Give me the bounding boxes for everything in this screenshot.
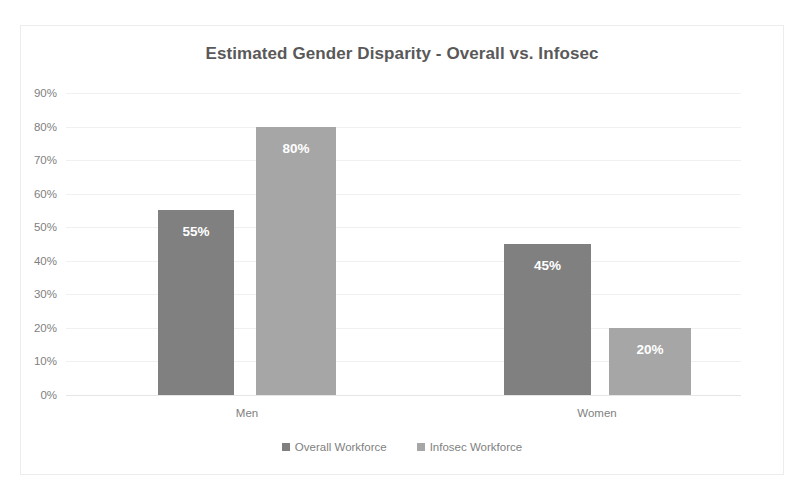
bar-value-label: 80%: [256, 141, 336, 156]
ytick-label-80: 80%: [34, 121, 57, 133]
xaxis-label-men: Men: [236, 407, 258, 419]
chart-title: Estimated Gender Disparity - Overall vs.…: [21, 44, 783, 64]
chart-legend: Overall Workforce Infosec Workforce: [21, 441, 783, 453]
ytick-label-40: 40%: [34, 255, 57, 267]
ytick-label-50: 50%: [34, 221, 57, 233]
ytick-label-70: 70%: [34, 154, 57, 166]
bar-value-label: 55%: [158, 224, 234, 239]
bar-value-label: 20%: [609, 342, 691, 357]
legend-swatch-icon: [282, 443, 290, 451]
gridline-90: 90%: [66, 93, 741, 94]
legend-item-infosec-workforce[interactable]: Infosec Workforce: [417, 441, 522, 453]
legend-item-overall-workforce[interactable]: Overall Workforce: [282, 441, 387, 453]
bar-men-overall[interactable]: 55%: [158, 210, 234, 395]
ytick-label-60: 60%: [34, 188, 57, 200]
gridline-80: 80%: [66, 127, 741, 128]
bar-women-infosec[interactable]: 20%: [609, 328, 691, 395]
ytick-label-30: 30%: [34, 288, 57, 300]
ytick-label-20: 20%: [34, 322, 57, 334]
gridline-60: 60%: [66, 194, 741, 195]
gridline-70: 70%: [66, 160, 741, 161]
legend-swatch-icon: [417, 443, 425, 451]
plot-area: 90% 80% 70% 60% 50% 40% 30% 20% 10% 0%: [66, 93, 741, 395]
ytick-label-90: 90%: [34, 87, 57, 99]
bar-women-overall[interactable]: 45%: [504, 244, 591, 395]
bar-men-infosec[interactable]: 80%: [256, 127, 336, 395]
xaxis-label-women: Women: [577, 407, 616, 419]
bar-value-label: 45%: [504, 258, 591, 273]
gridline-0: 0%: [66, 395, 741, 396]
legend-label: Infosec Workforce: [430, 441, 522, 453]
ytick-label-10: 10%: [34, 355, 57, 367]
legend-label: Overall Workforce: [295, 441, 387, 453]
ytick-label-0: 0%: [40, 389, 57, 401]
chart-container: Estimated Gender Disparity - Overall vs.…: [20, 25, 784, 475]
